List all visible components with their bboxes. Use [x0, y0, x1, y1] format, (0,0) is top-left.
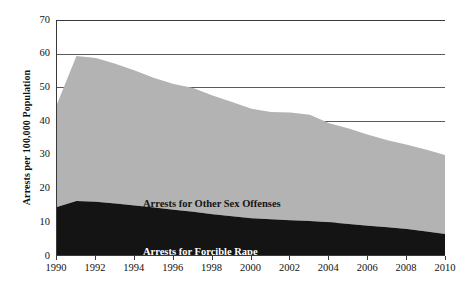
x-tick-mark-1992 [95, 256, 96, 260]
series-areas [57, 20, 445, 256]
y-tick-label-70: 70 [6, 15, 50, 26]
x-tick-mark-1994 [134, 256, 135, 260]
x-tick-mark-2002 [289, 256, 290, 260]
y-tick-label-60: 60 [6, 48, 50, 59]
plot-area: Arrests for Other Sex Offenses Arrests f… [56, 20, 445, 256]
y-tick-label-10: 10 [6, 217, 50, 228]
series-label-other-sex-offenses: Arrests for Other Sex Offenses [143, 198, 281, 209]
x-tick-mark-2010 [445, 256, 446, 260]
x-tick-mark-1990 [56, 256, 57, 260]
stacked-area-chart: Arrests per 100,000 Population 010203040… [0, 0, 467, 294]
y-tick-label-50: 50 [6, 82, 50, 93]
y-tick-label-40: 40 [6, 116, 50, 127]
y-tick-label-20: 20 [6, 183, 50, 194]
x-tick-mark-1998 [212, 256, 213, 260]
series-label-forcible-rape: Arrests for Forcible Rape [143, 246, 258, 256]
y-axis-tick-labels: 010203040506070 [0, 0, 50, 294]
y-tick-label-0: 0 [6, 251, 50, 262]
x-tick-mark-2000 [251, 256, 252, 260]
x-tick-mark-2008 [406, 256, 407, 260]
x-tick-label-2010: 2010 [422, 262, 467, 273]
y-tick-label-30: 30 [6, 149, 50, 160]
x-tick-mark-1996 [173, 256, 174, 260]
x-tick-mark-2004 [328, 256, 329, 260]
x-tick-mark-2006 [367, 256, 368, 260]
